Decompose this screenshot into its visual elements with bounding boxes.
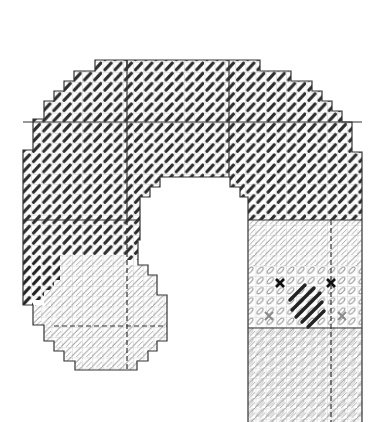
stitch-chart (0, 0, 372, 422)
